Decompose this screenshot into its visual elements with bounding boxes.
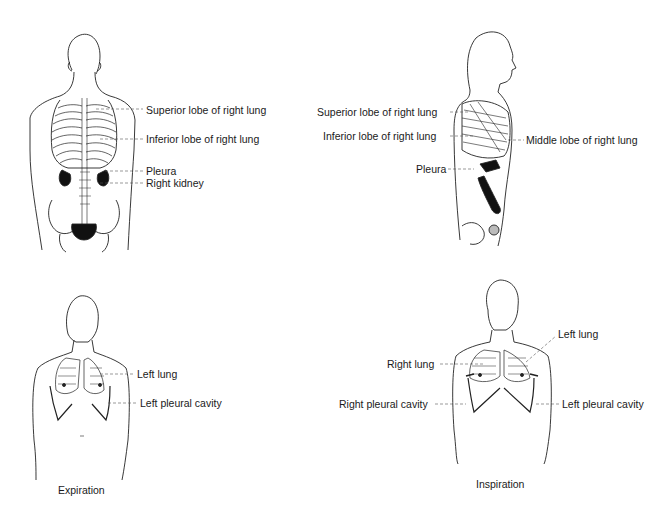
caption-inspiration: Inspiration [476,478,524,490]
inspiration-figure [453,280,552,464]
label-right-lung-inspiration: Right lung [387,358,434,370]
label-middle-lobe-side: Middle lobe of right lung [526,134,638,146]
back-view-figure [30,34,135,252]
label-superior-lobe-back: Superior lobe of right lung [146,104,266,116]
label-left-pleural-cavity-inspiration: Left pleural cavity [562,398,644,410]
label-pleura-back: Pleura [146,165,176,177]
label-right-kidney: Right kidney [146,177,204,189]
label-superior-lobe-side: Superior lobe of right lung [317,106,437,118]
label-inferior-lobe-side: Inferior lobe of right lung [323,130,436,142]
leader-lines [96,109,560,404]
label-pleura-side: Pleura [416,163,446,175]
label-left-lung-inspiration: Left lung [558,328,598,340]
label-right-pleural-cavity: Right pleural cavity [339,398,428,410]
caption-expiration: Expiration [58,484,105,496]
label-inferior-lobe-back: Inferior lobe of right lung [146,133,259,145]
expiration-figure [33,296,130,480]
label-left-lung-expiration: Left lung [137,368,177,380]
label-left-pleural-cavity-expiration: Left pleural cavity [140,397,222,409]
anatomy-illustrations [0,0,669,510]
side-view-figure [454,32,516,246]
